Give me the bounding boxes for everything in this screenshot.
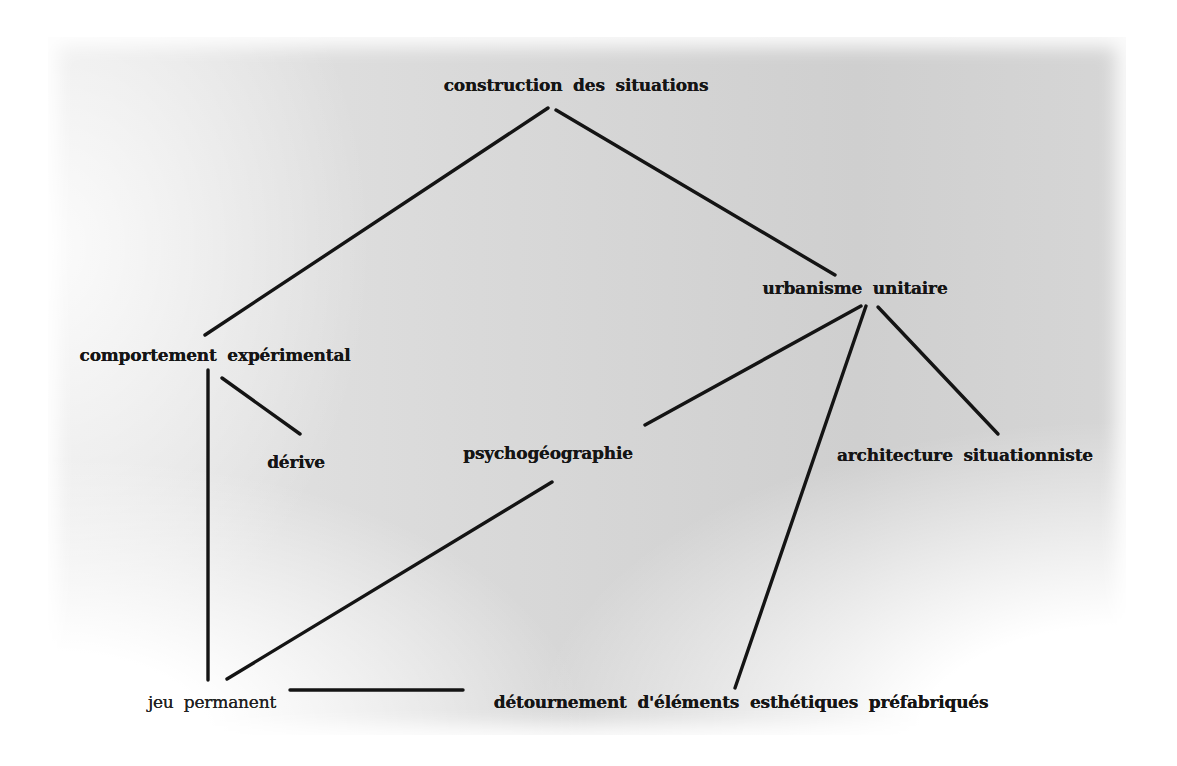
edge-psychogeographie-jeu: [227, 482, 552, 679]
edge-construction-urbanisme: [556, 110, 835, 275]
node-psychogeographie: psychogéographie: [463, 443, 633, 463]
node-urbanisme-unitaire: urbanisme unitaire: [762, 278, 947, 298]
edge-urbanisme-architecture: [878, 307, 998, 434]
node-construction-des-situations: construction des situations: [444, 75, 709, 95]
node-jeu-permanent: jeu permanent: [148, 692, 276, 712]
edge-construction-comportement: [205, 108, 548, 335]
diagram-canvas: construction des situations urbanisme un…: [0, 0, 1177, 766]
edge-urbanisme-psychogeographie: [645, 306, 861, 425]
node-architecture-situationniste: architecture situationniste: [837, 445, 1093, 465]
node-comportement-experimental: comportement expérimental: [79, 345, 350, 365]
connector-lines: [0, 0, 1177, 766]
node-detournement: détournement d'éléments esthétiques préf…: [494, 692, 989, 712]
node-derive: dérive: [267, 452, 325, 472]
edge-comportement-derive: [222, 378, 300, 434]
